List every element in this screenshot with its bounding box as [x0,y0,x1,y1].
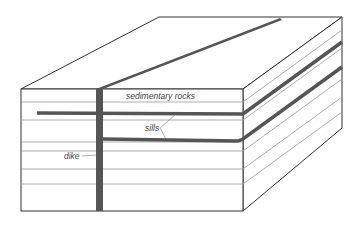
dike-label: dike [64,152,80,161]
sedimentary-rocks-label: sedimentary rocks [126,92,195,101]
block-diagram [0,0,361,227]
sills-label: sills [145,124,159,133]
dike-front [96,89,103,211]
front-face [21,89,243,211]
